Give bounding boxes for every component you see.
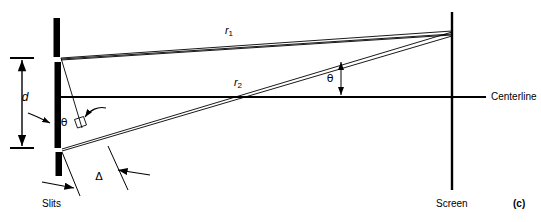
barrier-segment-middle — [55, 62, 62, 148]
ray-lower-extension-line — [62, 36, 452, 151]
centerline-screen-intersection — [450, 95, 453, 98]
perpendicular-pointer-arrow — [85, 107, 106, 117]
figure-double-slit-geometry: d θ Δ Slits r1 r2 θ Centerline Screen (c… — [0, 0, 541, 222]
delta-arrow-right — [118, 170, 150, 175]
angle-at-slits-label: θ — [61, 117, 68, 128]
barrier-segment-bottom — [56, 152, 63, 176]
path-r2-label: r2 — [234, 77, 242, 88]
slit-pointer-arrow — [28, 113, 50, 123]
path-difference-label: Δ — [95, 171, 103, 182]
ray-r1-line — [61, 31, 452, 58]
path-r1-subscript: 1 — [229, 29, 233, 38]
delta-boundary-right — [108, 146, 128, 190]
path-r2-subscript: 2 — [238, 81, 242, 90]
ray-bundle — [61, 31, 452, 151]
angle-at-screen-label: θ — [327, 73, 334, 84]
slits-caption: Slits — [42, 199, 61, 209]
centerline-caption: Centerline — [491, 92, 537, 102]
delta-arrow-left — [42, 182, 74, 188]
ray-r2-line — [62, 32, 452, 149]
ray-r2-parallel-line — [61, 34, 452, 59]
path-r1-label: r1 — [225, 25, 233, 36]
delta-boundary-left — [62, 152, 80, 196]
panel-label: (c) — [513, 199, 525, 209]
slit-separation-label: d — [22, 91, 29, 103]
diagram-canvas — [0, 0, 541, 222]
barrier-segment-top — [54, 18, 61, 57]
screen-caption: Screen — [436, 199, 468, 209]
ray-r1-secondary-line — [61, 35, 452, 60]
